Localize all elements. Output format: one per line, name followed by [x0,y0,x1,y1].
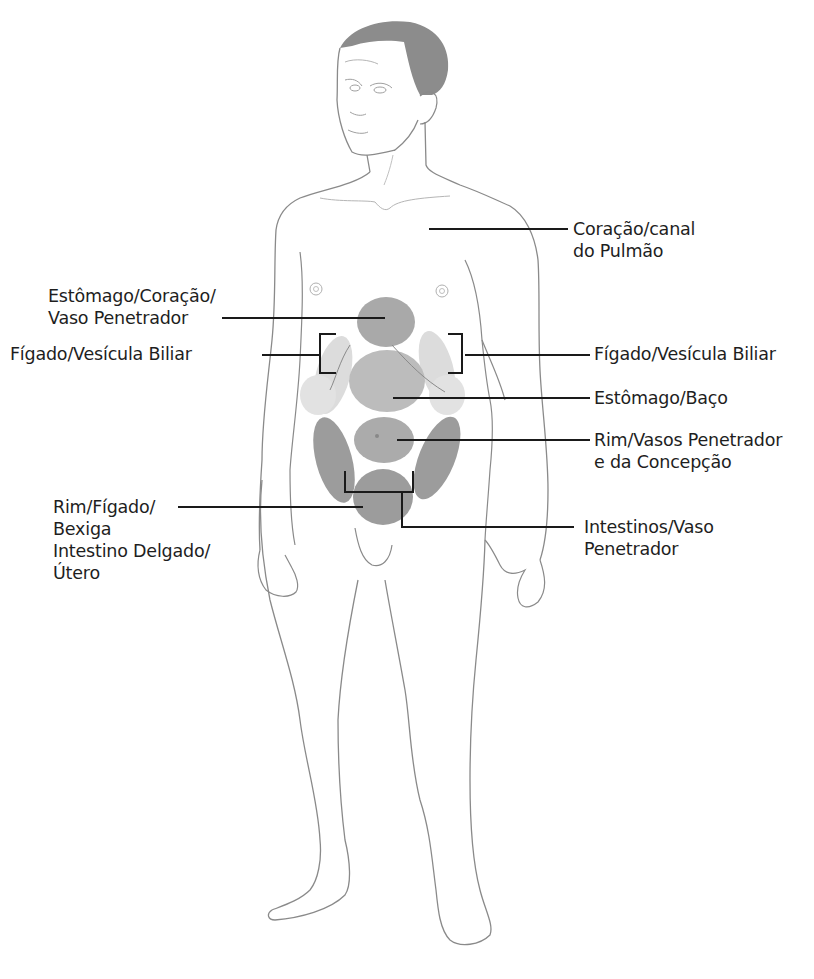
right-hip [385,540,491,945]
label-liver-gallbladder-left: Fígado/Vesícula Biliar [10,343,192,365]
right-hand [485,540,545,607]
zone-lower-center [353,469,413,525]
ear [420,92,437,124]
zone-stomach-spleen [349,350,425,412]
neck [367,122,510,206]
nipple-right [436,285,448,297]
hair [340,21,448,95]
label-heart-lung: Coração/canal do Pulmão [573,218,695,262]
label-kidney-liver-bladder: Rim/Fígado/ Bexiga Intestino Delgado/ Út… [53,496,210,584]
zone-upper-center [357,297,415,347]
label-intestines-vessel: Intestinos/Vaso Penetrador [584,516,714,560]
crotch [355,528,392,566]
label-liver-gallbladder-right: Fígado/Vesícula Biliar [594,343,776,365]
label-stomach-spleen: Estômago/Baço [594,387,728,409]
label-kidney-vessels: Rim/Vasos Penetrador e da Concepção [594,429,782,473]
label-stomach-heart: Estômago/Coração/ Vaso Penetrador [48,285,253,329]
zone-lower-left-light [300,375,336,415]
left-hip [260,480,358,920]
left-hand [258,550,298,596]
right-shoulder [510,206,548,560]
zone-lower-right-light [429,375,465,415]
nipple-left [310,283,322,295]
body-diagram [0,0,814,979]
